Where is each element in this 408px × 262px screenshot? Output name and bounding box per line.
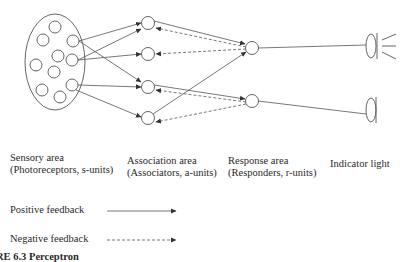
positive-feedback-links xyxy=(153,21,246,114)
association-area-title: Association area xyxy=(127,155,217,167)
response-nodes xyxy=(246,42,259,108)
response-area-title: Response area xyxy=(228,155,316,167)
sensory-to-association-links xyxy=(76,23,141,117)
legend-positive-label: Positive feedback xyxy=(10,204,84,216)
sensory-area xyxy=(25,14,85,110)
indicator-light-on xyxy=(366,33,396,59)
sensory-area-subtitle: (Photoreceptors, s-units) xyxy=(10,164,113,176)
response-area-subtitle: (Responders, r-units) xyxy=(228,167,316,179)
response-area-label: Response area (Responders, r-units) xyxy=(228,155,316,179)
figure-caption: RE 6.3 Perceptron xyxy=(0,251,79,262)
negative-feedback-links xyxy=(156,28,246,122)
legend-negative-label: Negative feedback xyxy=(10,233,88,245)
indicator-light-off xyxy=(366,97,376,123)
association-area-label: Association area (Associators, a-units) xyxy=(127,155,217,179)
legend-lines xyxy=(107,211,176,240)
association-area-subtitle: (Associators, a-units) xyxy=(127,167,217,179)
indicator-title: Indicator light xyxy=(330,158,390,170)
sensory-area-label: Sensory area (Photoreceptors, s-units) xyxy=(10,152,113,176)
indicator-label: Indicator light xyxy=(330,158,390,170)
response-to-indicator-links xyxy=(258,45,366,114)
sensory-area-title: Sensory area xyxy=(10,152,113,164)
association-nodes xyxy=(142,17,155,125)
